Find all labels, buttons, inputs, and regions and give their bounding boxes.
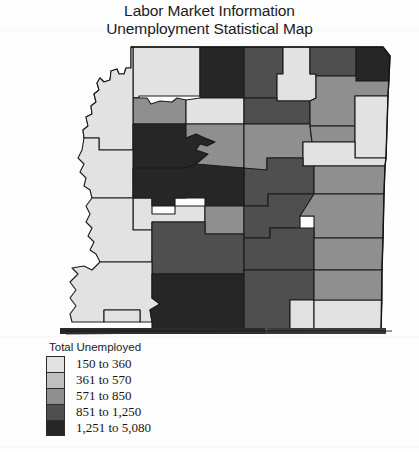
legend-item-1[interactable]: 361 to 570 <box>46 372 246 388</box>
mississippi-map-svg[interactable] <box>0 38 419 338</box>
map-page: Labor Market Information Unemployment St… <box>0 0 419 452</box>
legend-swatch-icon-4 <box>46 420 65 436</box>
county-north-central-east[interactable] <box>200 47 244 98</box>
legend-heading: Total Unemployed <box>49 341 246 353</box>
legend-rows: 150 to 360 361 to 570 571 to 850 851 to … <box>46 356 246 436</box>
legend-swatch-icon-3 <box>46 404 65 420</box>
legend-label-1: 361 to 570 <box>76 372 132 388</box>
county-north-mid-band-a[interactable] <box>133 98 186 124</box>
map-bottom-clip-band <box>60 328 392 334</box>
county-central-gray-a[interactable] <box>314 166 385 194</box>
legend-swatch-icon-1 <box>46 372 65 388</box>
page-title: Labor Market Information Unemployment St… <box>0 2 419 37</box>
legend: Total Unemployed 150 to 360 361 to 570 5… <box>46 341 246 436</box>
title-line-1: Labor Market Information <box>0 2 419 20</box>
county-south-central-b[interactable] <box>150 274 244 334</box>
legend-label-4: 1,251 to 5,080 <box>76 420 151 436</box>
legend-swatch-icon-2 <box>46 388 65 404</box>
county-polygons <box>70 47 390 334</box>
legend-item-4[interactable]: 1,251 to 5,080 <box>46 420 246 436</box>
county-south-central-d[interactable] <box>314 270 382 300</box>
county-northeast-upper-c[interactable] <box>310 47 356 76</box>
legend-label-0: 150 to 360 <box>76 356 132 372</box>
scan-artifact <box>0 447 419 448</box>
county-north-central-upper[interactable] <box>133 47 200 98</box>
legend-item-0[interactable]: 150 to 360 <box>46 356 246 372</box>
county-central-east-b[interactable] <box>310 126 355 142</box>
county-central-east-c[interactable] <box>355 96 388 158</box>
legend-label-2: 571 to 850 <box>76 388 132 404</box>
county-northeast-corner[interactable] <box>356 47 390 81</box>
choropleth-map[interactable] <box>0 38 419 338</box>
county-sw-sliver[interactable] <box>104 310 140 322</box>
legend-item-2[interactable]: 571 to 850 <box>46 388 246 404</box>
county-north-mid-band-b[interactable] <box>186 98 244 124</box>
title-line-2: Unemployment Statistical Map <box>0 20 419 38</box>
county-delta-mid-a[interactable] <box>83 47 133 150</box>
county-south-central-c[interactable] <box>314 238 383 270</box>
legend-item-3[interactable]: 851 to 1,250 <box>46 404 246 420</box>
legend-label-3: 851 to 1,250 <box>76 404 141 420</box>
county-north-mid-band-c[interactable] <box>244 98 310 124</box>
county-central-mid-gray[interactable] <box>205 206 244 234</box>
legend-swatch-icon-0 <box>46 356 65 372</box>
